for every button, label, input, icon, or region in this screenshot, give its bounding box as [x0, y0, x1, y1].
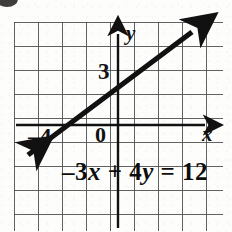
- equation-label: –3x + 4y = 12: [62, 158, 208, 186]
- equation-operator: +: [108, 158, 123, 185]
- plotted-line: [28, 32, 192, 155]
- equation-var-y: y: [142, 158, 154, 185]
- x-axis-label: x: [202, 124, 213, 145]
- y-axis-label: y: [126, 23, 135, 44]
- equation-term-y: 4: [129, 158, 142, 185]
- graph-plot: [0, 0, 232, 232]
- equation-term-x: –3: [62, 158, 88, 185]
- graph-figure: y x 3 0 –4 –3x + 4y = 12: [0, 0, 232, 232]
- equation-equals: =: [161, 158, 176, 185]
- origin-label: 0: [95, 124, 106, 146]
- y-intercept-label: 3: [98, 60, 110, 83]
- x-intercept-label: –4: [28, 124, 51, 148]
- equation-var-x: x: [88, 158, 101, 185]
- equation-rhs: 12: [182, 158, 208, 185]
